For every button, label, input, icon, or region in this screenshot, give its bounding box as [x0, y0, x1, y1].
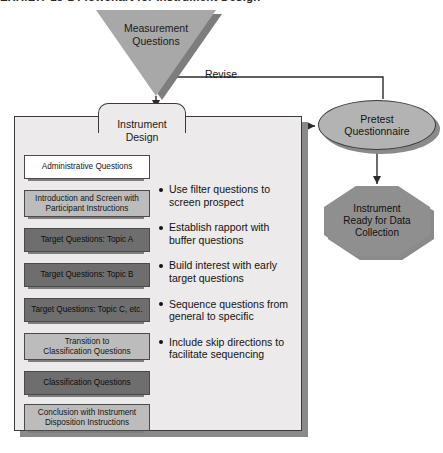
step-face: Conclusion with Instrument Disposition I… [24, 404, 150, 431]
guideline-item: Establish rapport with buffer questions [158, 221, 298, 246]
guideline-line1: Establish rapport with [169, 221, 269, 233]
guideline-line2: target questions [169, 272, 244, 284]
step-face: Transition to Classification Questions [24, 333, 150, 360]
guideline-item: Build interest with early target questio… [158, 259, 298, 284]
instrument-design-title: Instrument Design [96, 118, 188, 144]
step-line1: Administrative Questions [42, 162, 133, 171]
step-face: Target Questions: Topic A [24, 228, 150, 252]
step-box-target-questions-topic-c[interactable]: Target Questions: Topic C, etc. [24, 298, 140, 320]
step-line1: Target Questions: Topic B [40, 270, 133, 279]
step-face: Introduction and Screen with Participant… [24, 190, 150, 217]
instrument-ready-line2: Ready for Data [343, 215, 410, 226]
diagram-canvas: EXHIBIT 13-1 Flowchart for Instrument De… [0, 0, 443, 453]
instrument-ready-label: Instrument Ready for Data Collection [324, 186, 430, 256]
step-line1: Target Questions: Topic C, etc. [31, 305, 142, 314]
pretest-questionnaire-node[interactable]: Pretest Questionnaire [318, 100, 436, 150]
pretest-line1: Pretest [360, 113, 393, 125]
measurement-questions-line1: Measurement [96, 22, 216, 35]
step-face: Administrative Questions [24, 155, 150, 179]
guideline-line2: screen prospect [169, 196, 244, 208]
step-line1: Introduction and Screen with [35, 194, 139, 203]
step-line2: Classification Questions [43, 347, 130, 356]
step-line1: Classification Questions [43, 378, 130, 387]
guideline-item: Use filter questions to screen prospect [158, 183, 298, 208]
step-line1: Transition to [65, 337, 110, 346]
step-box-transition-to-classification[interactable]: Transition to Classification Questions [24, 333, 140, 358]
design-guidelines-list: Use filter questions to screen prospect … [158, 183, 298, 361]
guideline-line1: Use filter questions to [169, 183, 270, 195]
step-box-target-questions-topic-a[interactable]: Target Questions: Topic A [24, 228, 140, 250]
instrument-design-title-line1: Instrument [96, 118, 188, 131]
step-face: Target Questions: Topic B [24, 263, 150, 287]
guideline-line1: Sequence questions from [169, 298, 288, 310]
measurement-questions-node: Measurement Questions [96, 10, 222, 100]
step-face: Classification Questions [24, 371, 150, 395]
guideline-line2: buffer questions [169, 234, 244, 246]
step-box-conclusion-with-instrument[interactable]: Conclusion with Instrument Disposition I… [24, 404, 140, 429]
instrument-ready-line1: Instrument [353, 203, 400, 214]
step-box-introduction-and-screen[interactable]: Introduction and Screen with Participant… [24, 190, 140, 215]
pretest-line2: Questionnaire [344, 125, 409, 137]
step-box-target-questions-topic-b[interactable]: Target Questions: Topic B [24, 263, 140, 285]
measurement-questions-label: Measurement Questions [96, 22, 216, 47]
measurement-questions-line2: Questions [96, 35, 216, 48]
revise-connector-label: Revise [186, 68, 256, 80]
guideline-item: Sequence questions from general to speci… [158, 298, 298, 323]
step-line2: Disposition Instructions [45, 418, 129, 427]
guideline-line2: facilitate sequencing [169, 348, 264, 360]
step-face: Target Questions: Topic C, etc. [24, 298, 150, 322]
guideline-line2: general to specific [169, 310, 254, 322]
guideline-line1: Build interest with early [169, 259, 277, 271]
step-box-administrative-questions[interactable]: Administrative Questions [24, 155, 140, 177]
instrument-ready-line3: Collection [355, 227, 399, 238]
step-line1: Conclusion with Instrument [38, 408, 136, 417]
step-line2: Participant Instructions [46, 204, 129, 213]
guideline-item: Include skip directions to facilitate se… [158, 336, 298, 361]
step-box-classification-questions[interactable]: Classification Questions [24, 371, 140, 393]
step-line1: Target Questions: Topic A [41, 235, 134, 244]
guideline-line1: Include skip directions to [169, 336, 284, 348]
instrument-design-title-line2: Design [96, 131, 188, 144]
